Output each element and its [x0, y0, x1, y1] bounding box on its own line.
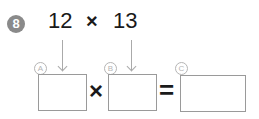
label-c: C	[175, 62, 188, 75]
operand-1: 12	[48, 8, 72, 34]
operand-2: 13	[113, 8, 137, 34]
problem-number-badge: 8	[7, 15, 25, 33]
times-symbol: ×	[89, 77, 103, 105]
answer-box-a[interactable]	[38, 74, 87, 111]
answer-box-c[interactable]	[180, 75, 246, 112]
answer-box-b[interactable]	[108, 74, 157, 111]
equals-symbol: =	[159, 75, 174, 106]
arrow-down-icon	[58, 62, 68, 72]
operator-times: ×	[86, 10, 98, 33]
arrow-down-icon	[127, 62, 137, 72]
